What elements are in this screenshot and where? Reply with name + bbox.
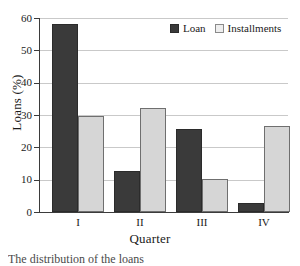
bar-loan-q3 <box>176 129 202 212</box>
y-tick-mark <box>34 180 39 181</box>
legend-label-installments: Installments <box>228 22 282 34</box>
y-tick-label: 50 <box>2 45 32 56</box>
legend-label-loan: Loan <box>183 22 206 34</box>
bar-installments-q1 <box>78 116 104 212</box>
x-axis-label: Quarter <box>0 231 300 246</box>
dark-swatch-icon <box>170 24 179 33</box>
y-tick-mark <box>34 212 39 213</box>
y-tick-mark <box>34 147 39 148</box>
y-tick-30: 30 <box>0 110 32 121</box>
bar-loan-q2 <box>114 171 140 212</box>
x-tick-label-q1: I <box>58 216 98 228</box>
y-tick-mark <box>34 83 39 84</box>
x-tick-label-q3: III <box>182 216 222 228</box>
legend-entry-loan: Loan <box>170 22 206 34</box>
bar-loan-q4 <box>238 203 264 212</box>
x-tick-label-q2: II <box>120 216 160 228</box>
y-tick-mark <box>34 50 39 51</box>
bar-loan-q1 <box>52 24 78 212</box>
y-tick-mark <box>34 18 39 19</box>
y-tick-label: 40 <box>2 77 32 88</box>
y-tick-20: 20 <box>0 142 32 153</box>
y-tick-label: 10 <box>2 174 32 185</box>
y-tick-10: 10 <box>0 174 32 185</box>
gridline-60 <box>40 18 288 19</box>
legend-entry-installments: Installments <box>215 22 282 34</box>
y-tick-mark <box>34 115 39 116</box>
bar-installments-q3 <box>202 179 228 212</box>
figure-caption: The distribution of the loans <box>8 252 298 266</box>
bar-installments-q4 <box>264 126 290 212</box>
y-tick-0: 0 <box>0 207 32 218</box>
y-tick-label: 60 <box>2 13 32 24</box>
chart-legend: Loan Installments <box>170 22 281 34</box>
x-axis-line <box>40 212 289 213</box>
y-tick-label: 20 <box>2 142 32 153</box>
y-tick-40: 40 <box>0 77 32 88</box>
light-swatch-icon <box>215 24 224 33</box>
y-tick-label: 0 <box>2 207 32 218</box>
y-tick-label: 30 <box>2 110 32 121</box>
bar-installments-q2 <box>140 108 166 212</box>
y-tick-60: 60 <box>0 13 32 24</box>
plot-area <box>40 18 288 212</box>
x-tick-label-q4: IV <box>244 216 284 228</box>
y-tick-50: 50 <box>0 45 32 56</box>
